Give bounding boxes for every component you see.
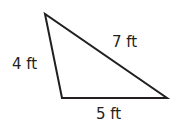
side-label-left: 4 ft bbox=[12, 55, 37, 73]
side-label-hypotenuse: 7 ft bbox=[112, 33, 137, 51]
triangle-shape bbox=[45, 14, 167, 98]
triangle-diagram: 4 ft 7 ft 5 ft bbox=[0, 0, 172, 134]
side-label-bottom: 5 ft bbox=[96, 105, 121, 123]
